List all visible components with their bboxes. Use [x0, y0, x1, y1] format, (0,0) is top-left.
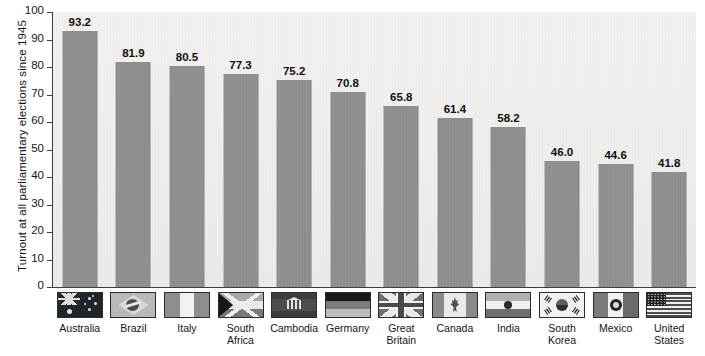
- plot-area: 93.281.980.577.375.270.865.861.458.246.0…: [53, 12, 696, 287]
- category-label: Australia: [53, 322, 107, 334]
- category-label: South Korea: [535, 322, 589, 346]
- category-germany[interactable]: Germany: [321, 292, 375, 334]
- y-axis-tick-label: 70: [31, 87, 44, 99]
- flag-south-africa-icon: [218, 292, 264, 318]
- x-axis-line: [52, 287, 696, 288]
- category-label: Great Britain: [375, 322, 429, 346]
- bar-germany[interactable]: [330, 92, 365, 287]
- category-south-africa[interactable]: South Africa: [214, 292, 268, 346]
- y-axis-tick-label: 20: [31, 224, 44, 236]
- category-label: Italy: [160, 322, 214, 334]
- bar-south-korea[interactable]: [545, 161, 580, 288]
- bar-chart: Turnout at all parliamentary elections s…: [0, 0, 705, 356]
- category-brazil[interactable]: Brazil: [107, 292, 161, 334]
- flag-canada-icon: [432, 292, 478, 318]
- category-italy[interactable]: Italy: [160, 292, 214, 334]
- bar-south-africa[interactable]: [223, 74, 258, 287]
- flag-germany-icon: [325, 292, 371, 318]
- flag-south-korea-icon: [539, 292, 585, 318]
- flag-united-states-icon: [646, 292, 692, 318]
- bar-slot: 65.8: [375, 12, 429, 287]
- bar-italy[interactable]: [169, 66, 204, 287]
- x-axis-category-row: AustraliaBrazilItalySouth AfricaCambodia…: [53, 292, 696, 356]
- bar-value-label: 58.2: [497, 112, 519, 124]
- bar-india[interactable]: [491, 127, 526, 287]
- y-axis-tick-label: 90: [31, 32, 44, 44]
- bar-value-label: 61.4: [444, 103, 466, 115]
- y-axis-tick-label: 100: [25, 4, 44, 16]
- bar-slot: 46.0: [535, 12, 589, 287]
- bar-brazil[interactable]: [116, 62, 151, 287]
- y-axis-tick-label: 40: [31, 169, 44, 181]
- bar-value-label: 77.3: [229, 59, 251, 71]
- category-mexico[interactable]: Mexico: [589, 292, 643, 334]
- category-cambodia[interactable]: Cambodia: [267, 292, 321, 334]
- y-axis: 0102030405060708090100: [0, 0, 53, 300]
- flag-mexico-icon: [593, 292, 639, 318]
- bar-slot: 77.3: [214, 12, 268, 287]
- flag-italy-icon: [164, 292, 210, 318]
- bar-value-label: 80.5: [176, 51, 198, 63]
- y-axis-tick-label: 0: [38, 279, 44, 291]
- bar-value-label: 44.6: [604, 149, 626, 161]
- category-india[interactable]: India: [482, 292, 536, 334]
- category-great-britain[interactable]: Great Britain: [375, 292, 429, 346]
- category-canada[interactable]: Canada: [428, 292, 482, 334]
- bar-slot: 58.2: [482, 12, 536, 287]
- y-axis-tick-label: 30: [31, 197, 44, 209]
- bar-slot: 70.8: [321, 12, 375, 287]
- y-axis-tick-label: 60: [31, 114, 44, 126]
- flag-india-icon: [485, 292, 531, 318]
- bar-slot: 44.6: [589, 12, 643, 287]
- category-label: Mexico: [589, 322, 643, 334]
- category-label: Cambodia: [267, 322, 321, 334]
- category-label: India: [482, 322, 536, 334]
- y-axis-tick-label: 10: [31, 252, 44, 264]
- bar-great-britain[interactable]: [384, 106, 419, 287]
- bar-slot: 41.8: [642, 12, 696, 287]
- bar-value-label: 46.0: [551, 146, 573, 158]
- bar-canada[interactable]: [437, 118, 472, 287]
- bar-value-label: 93.2: [69, 16, 91, 28]
- category-united-states[interactable]: United States: [642, 292, 696, 346]
- bar-slot: 81.9: [107, 12, 161, 287]
- bar-slot: 80.5: [160, 12, 214, 287]
- category-australia[interactable]: Australia: [53, 292, 107, 334]
- bar-value-label: 81.9: [122, 47, 144, 59]
- bar-value-label: 70.8: [336, 77, 358, 89]
- category-label: Germany: [321, 322, 375, 334]
- bar-value-label: 75.2: [283, 65, 305, 77]
- category-label: United States: [642, 322, 696, 346]
- y-axis-tick-label: 50: [31, 142, 44, 154]
- bar-slot: 75.2: [267, 12, 321, 287]
- bar-slot: 93.2: [53, 12, 107, 287]
- category-label: Canada: [428, 322, 482, 334]
- bar-value-label: 41.8: [658, 157, 680, 169]
- bar-value-label: 65.8: [390, 91, 412, 103]
- category-label: South Africa: [214, 322, 268, 346]
- y-axis-tick-label: 80: [31, 59, 44, 71]
- bar-australia[interactable]: [62, 31, 97, 287]
- flag-australia-icon: [57, 292, 103, 318]
- bar-slot: 61.4: [428, 12, 482, 287]
- flag-great-britain-icon: [378, 292, 424, 318]
- bar-united-states[interactable]: [652, 172, 687, 287]
- flag-brazil-icon: [110, 292, 156, 318]
- category-label: Brazil: [107, 322, 161, 334]
- flag-cambodia-icon: [271, 292, 317, 318]
- category-south-korea[interactable]: South Korea: [535, 292, 589, 346]
- bar-cambodia[interactable]: [277, 80, 312, 287]
- bar-mexico[interactable]: [598, 164, 633, 287]
